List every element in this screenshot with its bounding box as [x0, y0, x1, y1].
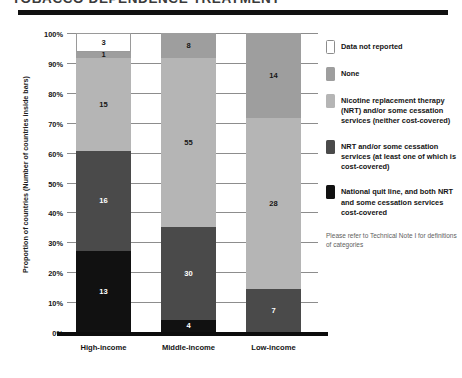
bar-segment[interactable]: 30 — [161, 227, 216, 319]
legend-item[interactable]: Nicotine replacement therapy (NRT) and/o… — [326, 94, 458, 127]
x-axis-tick-label: High-income — [76, 343, 131, 352]
bar-segment[interactable]: 1 — [76, 52, 131, 58]
legend-item[interactable]: None — [326, 67, 458, 81]
legend-item[interactable]: National quit line, and both NRT and som… — [326, 185, 458, 218]
bar-segment-value: 16 — [99, 197, 107, 205]
legend-label: NRT and/or some cessation services (at l… — [341, 140, 458, 173]
bar-segment[interactable]: 14 — [246, 33, 301, 118]
legend-item[interactable]: Data not reported — [326, 40, 458, 54]
legend-label: None — [341, 67, 359, 79]
chart-title: TOBACCO DEPENDENCE TREATMENT — [12, 0, 452, 7]
stacked-bar[interactable]: 430558 — [161, 33, 216, 332]
y-axis-tick: 100% — [44, 30, 63, 39]
bar-segment-value: 55 — [184, 139, 192, 147]
bar-segment[interactable]: 13 — [76, 251, 131, 332]
y-axis-tick: 10% — [48, 299, 63, 308]
legend-label: National quit line, and both NRT and som… — [341, 185, 458, 218]
legend-item[interactable]: NRT and/or some cessation services (at l… — [326, 140, 458, 173]
swatch-data-not-reported — [326, 40, 335, 54]
legend-label: Data not reported — [341, 40, 403, 52]
title-divider — [18, 10, 448, 15]
y-axis-tick: 50% — [48, 179, 63, 188]
bar-segment-value: 7 — [271, 307, 275, 315]
bar-segment[interactable]: 3 — [76, 33, 131, 52]
bar-segment-value: 4 — [186, 322, 190, 330]
y-axis-tick: 20% — [48, 269, 63, 278]
x-axis-tick-label: Middle-income — [161, 343, 216, 352]
bar-segment-value: 8 — [186, 42, 190, 50]
bar-segment[interactable]: 8 — [161, 33, 216, 58]
bar-segment-value: 28 — [269, 200, 277, 208]
stacked-bar[interactable]: 72814 — [246, 33, 301, 332]
bar-segment[interactable]: 4 — [161, 320, 216, 332]
x-axis-tick-label: Low-income — [246, 343, 301, 352]
swatch-quitline-fully-covered — [326, 185, 335, 199]
y-axis-label: Proportion of countries (Number of count… — [21, 30, 30, 320]
y-axis-tick: 30% — [48, 239, 63, 248]
swatch-nrt-not-covered — [326, 94, 335, 108]
bar-segment[interactable]: 15 — [76, 58, 131, 151]
legend-note: Please refer to Technical Note I for def… — [326, 231, 458, 249]
y-axis-tick: 40% — [48, 209, 63, 218]
legend-label: Nicotine replacement therapy (NRT) and/o… — [341, 94, 458, 127]
y-axis-tick: 70% — [48, 119, 63, 128]
bar-segment[interactable]: 16 — [76, 151, 131, 251]
bar-segment[interactable]: 7 — [246, 289, 301, 332]
y-axis-tick: 60% — [48, 149, 63, 158]
plot-area: 0%10%20%30%40%50%60%70%80%90%100% 131615… — [67, 33, 318, 332]
chart-legend: Data not reportedNoneNicotine replacemen… — [326, 40, 458, 249]
bar-segment[interactable]: 28 — [246, 118, 301, 289]
bar-segment-value: 13 — [99, 288, 107, 296]
bar-segment-value: 3 — [101, 39, 105, 47]
bar-segment[interactable]: 55 — [161, 58, 216, 228]
bar-segment-value: 15 — [99, 101, 107, 109]
y-axis-tick: 90% — [48, 59, 63, 68]
swatch-none — [326, 67, 335, 81]
x-axis-line — [57, 332, 328, 336]
swatch-nrt-partly-covered — [326, 140, 335, 154]
chart-figure: TOBACCO DEPENDENCE TREATMENT Proportion … — [0, 0, 462, 378]
bar-segment-value: 30 — [184, 270, 192, 278]
bar-segment-value: 1 — [101, 52, 105, 58]
y-axis-tick: 80% — [48, 89, 63, 98]
bar-segment-value: 14 — [269, 72, 277, 80]
stacked-bar[interactable]: 13161513 — [76, 33, 131, 332]
